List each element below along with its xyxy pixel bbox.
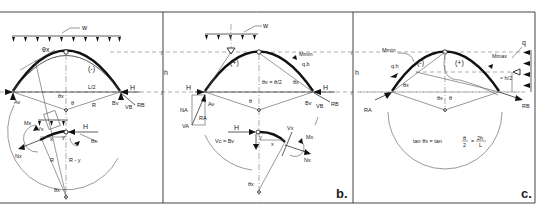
formula-frac1-num: θ	[463, 135, 466, 141]
crown-shear-eq-b: Vc = Bv	[215, 138, 234, 144]
panel-a: w θx (-) L/2 θx θ R Av H Bv VB RB	[5, 24, 145, 200]
formula-lhs: tan θx = tan	[413, 138, 442, 144]
qh-label-c: q.h	[391, 63, 399, 69]
radius-minus-y-a: R - y	[69, 157, 81, 163]
moment-label-a: Mx	[24, 120, 32, 126]
moment-sign-a: (-)	[88, 65, 95, 73]
theta-x-top-a: θx	[42, 46, 50, 53]
va-label-b: VA	[182, 123, 189, 129]
three-hinged-arch-figure: h h / / / / w	[0, 0, 551, 211]
h-free-a: H	[83, 123, 88, 130]
moment-sign-pos-c: (+)	[455, 59, 464, 67]
panel-label-b: b.	[336, 186, 348, 201]
formula-frac2-den: L	[479, 142, 482, 148]
moment-sign-neg-c: (-)	[417, 59, 424, 67]
rb-label-a: RB	[137, 102, 145, 108]
theta-x-free-a: θx	[91, 138, 97, 144]
moment-sign-b: (+)	[230, 59, 239, 67]
moment-label-b: Mx	[306, 134, 314, 140]
theta-b: θ	[249, 98, 252, 104]
load-q-label-c: q	[522, 39, 526, 47]
panel-c: (-) (+) Mmin Mmax q.h ≈ h/2 θx θx θ q RA	[360, 39, 532, 201]
load-w-label-b: w	[262, 22, 269, 29]
theta-x-eq-b: θx = θ/2	[262, 79, 282, 85]
x-label-b: x	[271, 141, 274, 147]
h-dimension-ab: h	[164, 69, 168, 76]
rb-label-c: RB	[522, 103, 530, 109]
crown-h-label-b: H	[234, 124, 239, 131]
panel-label-c: c.	[521, 186, 532, 201]
theta-x-bottom-a: θx	[54, 187, 60, 193]
vb-label-b: VB	[316, 103, 324, 109]
bv-label-a: Bv	[112, 100, 119, 106]
mmin-label-c: Mmin	[382, 47, 395, 53]
rb-label-b: RB	[331, 101, 339, 107]
bv-label-b: Bv	[305, 100, 312, 106]
ra-label-b: RA	[199, 115, 207, 121]
uniform-load-w: w	[12, 24, 121, 42]
panel-b: w (+) Mmin q.b θx = θ/2 θx θ H H Av NA R…	[180, 22, 348, 201]
normal-label-a: Nx	[15, 153, 22, 159]
na-label-b: NA	[180, 107, 188, 113]
theta-x-b: θx	[293, 79, 299, 85]
theta-x-c: θx	[403, 82, 409, 88]
h-over-2-label-c: ≈ h/2	[500, 75, 512, 81]
y-label-b: y	[259, 134, 262, 140]
av-label-b: Av	[208, 101, 215, 107]
crown-hinge-a	[64, 50, 68, 54]
mmax-label-c: Mmax	[492, 53, 507, 59]
theta-c: θ	[449, 95, 452, 101]
theta-a: θ	[71, 100, 74, 106]
mmin-label-b: Mmin	[299, 51, 312, 57]
shear-label-b: Vx	[287, 125, 294, 131]
formula-c: tan θx = tan θ 2 = 2h L	[413, 135, 486, 148]
normal-label-b: Nx	[304, 157, 311, 163]
theta-x-center-a: θx	[58, 93, 64, 99]
crown-hinge-b	[257, 50, 261, 54]
vb-label-a: VB	[125, 104, 133, 110]
shear-label-a: Vx	[37, 126, 44, 132]
partial-load-w: w	[205, 22, 269, 54]
formula-frac2-num: 2h	[477, 135, 483, 141]
h-label-a: H	[130, 84, 135, 91]
formula-eq: =	[471, 138, 474, 144]
h-dimension-bc: h	[355, 69, 359, 76]
load-w-label-a: w	[81, 24, 88, 31]
qb-label-b: q.b	[302, 61, 310, 67]
h-right-label-b: H	[323, 84, 328, 91]
theta-x-bottom-b: θx	[248, 181, 254, 187]
theta-x-center-c: θx	[437, 95, 443, 101]
h-left-label-b: H	[186, 84, 191, 91]
formula-frac1-den: 2	[463, 142, 466, 148]
lateral-load-q: q	[512, 39, 531, 92]
arch-a	[13, 51, 120, 92]
free-body-b: H Vc = Bv y x Vx Mx Nx θx	[215, 124, 314, 193]
av-label-a: Av	[14, 99, 21, 105]
span-half-label: L/2	[88, 84, 96, 90]
radius-a: R	[92, 102, 96, 108]
ra-label-c: RA	[364, 107, 372, 113]
